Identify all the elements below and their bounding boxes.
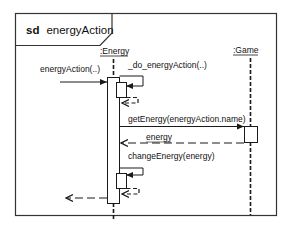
svg-text:sd energyAction: sd energyAction (26, 20, 114, 37)
activation-game (245, 127, 258, 143)
frame-keyword: sd (26, 24, 39, 36)
frame-title: energyAction (46, 24, 113, 36)
message-label-energy-return: energy (146, 132, 173, 142)
lifeline-label-game: :Game (233, 45, 259, 55)
message-label-do-energy-action: _do_energyAction(..) (127, 60, 207, 70)
message-label-energy-action: energyAction(..) (40, 64, 100, 74)
message-label-change-energy: changeEnergy(energy) (128, 151, 215, 161)
return-arrow-change-energy (122, 189, 139, 195)
return-arrow-do-energy-action (122, 98, 138, 104)
activation-energy-nested-1 (117, 83, 127, 98)
lifeline-label-energy: :Energy (100, 46, 130, 56)
activation-energy-nested-2 (117, 174, 127, 189)
message-label-get-energy: getEnergy(energyAction.name) (128, 114, 246, 124)
sequence-diagram: sd energyAction :Energy :Game energyActi… (0, 0, 291, 235)
